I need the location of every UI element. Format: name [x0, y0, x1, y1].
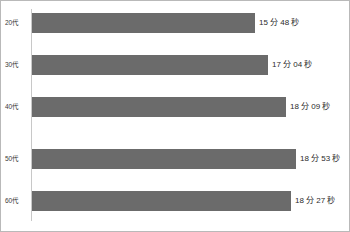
value-label-50s: 18 分 53 秒: [300, 154, 340, 164]
bar-40s: [32, 97, 286, 117]
plot-area: 20代 15 分 48 秒 30代 17 分 04 秒 40代 18 分 09 …: [1, 1, 349, 231]
bar-20s: [32, 13, 255, 33]
category-label-60s: 60代: [5, 197, 29, 205]
bar-50s: [32, 149, 296, 169]
bar-chart: 20代 15 分 48 秒 30代 17 分 04 秒 40代 18 分 09 …: [0, 0, 350, 232]
category-label-30s: 30代: [5, 61, 29, 69]
value-label-30s: 17 分 04 秒: [272, 60, 312, 70]
bar-row: 20代 15 分 48 秒: [1, 12, 349, 34]
bar-row: 60代 18 分 27 秒: [1, 190, 349, 212]
category-label-50s: 50代: [5, 155, 29, 163]
bar-row: 50代 18 分 53 秒: [1, 148, 349, 170]
bar-row: 40代 18 分 09 秒: [1, 96, 349, 118]
value-label-20s: 15 分 48 秒: [259, 18, 299, 28]
category-label-20s: 20代: [5, 19, 29, 27]
value-label-60s: 18 分 27 秒: [295, 196, 335, 206]
bar-row: 30代 17 分 04 秒: [1, 54, 349, 76]
value-label-40s: 18 分 09 秒: [290, 102, 330, 112]
category-label-40s: 40代: [5, 103, 29, 111]
bar-60s: [32, 191, 291, 211]
bar-30s: [32, 55, 268, 75]
